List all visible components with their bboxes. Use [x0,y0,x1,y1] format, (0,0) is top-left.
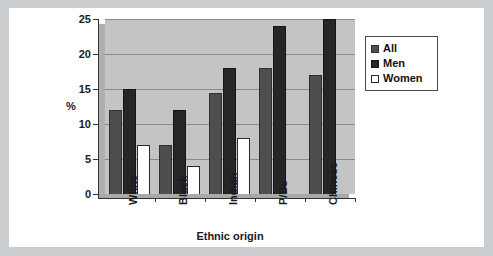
x-axis-tick-mark [305,198,306,202]
x-axis-tick-label-white: White [127,175,139,205]
x-axis-tick-label-chinese: Chinese [327,162,339,205]
bar-all-black[interactable] [159,145,172,194]
y-axis-tick-mark [93,54,98,55]
figure-canvas: 0510152025 % WhiteBlackIndianP/BsChinese… [9,8,484,247]
legend-swatch-all [371,45,379,53]
y-axis-tick-mark [93,124,98,125]
x-axis-tick-mark [205,198,206,202]
y-axis-tick-mark [93,159,98,160]
y-axis-title: % [66,100,76,112]
bar-men-p-bs[interactable] [273,26,286,194]
legend-swatch-men [371,60,379,68]
legend-item-women[interactable]: Women [371,71,433,86]
x-axis-tick-mark [155,198,156,202]
y-axis-tick-mark [93,89,98,90]
y-axis-line [98,19,99,199]
legend-label: Women [383,73,423,84]
bar-all-white[interactable] [109,110,122,194]
x-axis-tick-label-indian: Indian [227,173,239,205]
legend-item-men[interactable]: Men [371,56,433,71]
bar-all-chinese[interactable] [309,75,322,194]
y-axis-tick-mark [93,19,98,20]
plot-area [105,19,355,194]
legend-label: All [383,43,397,54]
legend-label: Men [383,58,405,69]
x-axis-tick-mark [255,198,256,202]
bar-all-p-bs[interactable] [259,68,272,194]
y-axis-tick-mark [93,194,98,195]
bar-group [259,19,309,194]
y-axis-tick-label: 25 [65,14,91,25]
bar-group [109,19,159,194]
bar-all-indian[interactable] [209,93,222,195]
legend-swatch-women [371,75,379,83]
legend-item-all[interactable]: All [371,41,433,56]
chart-legend: AllMenWomen [365,36,438,91]
y-axis-tick-label: 0 [65,189,91,200]
figure-outer-frame: 0510152025 % WhiteBlackIndianP/BsChinese… [0,0,493,256]
x-axis-tick-mark [355,198,356,202]
x-axis-tick-label-p-bs: P/Bs [277,181,289,205]
y-axis-tick-label: 5 [65,154,91,165]
y-axis-tick-label: 10 [65,119,91,130]
bar-group [209,19,259,194]
y-axis-tick-label: 20 [65,49,91,60]
bar-chart: 0510152025 % WhiteBlackIndianP/BsChinese… [9,8,484,247]
bar-group [159,19,209,194]
y-axis-tick-label: 15 [65,84,91,95]
x-axis-title: Ethnic origin [105,230,355,242]
y-axis-tick-labels: 0510152025 [61,8,91,247]
x-axis-tick-label-black: Black [177,176,189,205]
